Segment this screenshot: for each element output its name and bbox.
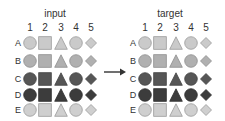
- circle-icon: [23, 103, 37, 117]
- row-label: B: [13, 56, 23, 66]
- diamond-icon: [199, 36, 213, 50]
- circle-icon: [69, 103, 83, 117]
- circle-icon: [23, 36, 37, 50]
- triangle-icon: [54, 54, 68, 68]
- panel-target: target12345ABCDE: [115, 0, 215, 121]
- diamond-icon: [199, 103, 213, 117]
- circle-icon: [184, 103, 198, 117]
- column-label: 1: [138, 22, 152, 33]
- panel-title: target: [125, 8, 215, 19]
- circle-icon: [69, 36, 83, 50]
- circle-icon: [23, 54, 37, 68]
- triangle-icon: [54, 72, 68, 86]
- circle-icon: [69, 72, 83, 86]
- circle-icon: [138, 103, 152, 117]
- square-icon: [38, 72, 52, 86]
- triangle-icon: [54, 88, 68, 102]
- column-label: 5: [84, 22, 98, 33]
- square-icon: [38, 36, 52, 50]
- triangle-icon: [169, 103, 183, 117]
- circle-icon: [69, 88, 83, 102]
- circle-icon: [184, 54, 198, 68]
- circle-icon: [138, 72, 152, 86]
- circle-icon: [23, 72, 37, 86]
- triangle-icon: [169, 36, 183, 50]
- row-label: E: [13, 105, 23, 115]
- row-label: D: [128, 90, 138, 100]
- diamond-icon: [84, 36, 98, 50]
- row-label: A: [128, 38, 138, 48]
- square-icon: [38, 54, 52, 68]
- row-label: A: [13, 38, 23, 48]
- square-icon: [153, 72, 167, 86]
- panel-title: input: [10, 8, 100, 19]
- column-label: 4: [184, 22, 198, 33]
- diamond-icon: [84, 54, 98, 68]
- column-label: 2: [153, 22, 167, 33]
- circle-icon: [184, 88, 198, 102]
- circle-icon: [184, 36, 198, 50]
- square-icon: [38, 103, 52, 117]
- square-icon: [153, 88, 167, 102]
- triangle-icon: [169, 72, 183, 86]
- diamond-icon: [84, 88, 98, 102]
- circle-icon: [69, 54, 83, 68]
- square-icon: [38, 88, 52, 102]
- column-label: 3: [54, 22, 68, 33]
- column-label: 4: [69, 22, 83, 33]
- right-arrow-icon: [103, 64, 127, 76]
- diamond-icon: [199, 72, 213, 86]
- diamond-icon: [199, 88, 213, 102]
- triangle-icon: [169, 88, 183, 102]
- column-label: 1: [23, 22, 37, 33]
- triangle-icon: [54, 36, 68, 50]
- circle-icon: [138, 54, 152, 68]
- column-label: 5: [199, 22, 213, 33]
- circle-icon: [138, 88, 152, 102]
- square-icon: [153, 54, 167, 68]
- circle-icon: [23, 88, 37, 102]
- triangle-icon: [169, 54, 183, 68]
- circle-icon: [138, 36, 152, 50]
- column-label: 3: [169, 22, 183, 33]
- square-icon: [153, 103, 167, 117]
- row-label: B: [128, 56, 138, 66]
- row-label: C: [13, 74, 23, 84]
- column-label: 2: [38, 22, 52, 33]
- diamond-icon: [84, 103, 98, 117]
- row-label: D: [13, 90, 23, 100]
- row-label: E: [128, 105, 138, 115]
- row-label: C: [128, 74, 138, 84]
- circle-icon: [184, 72, 198, 86]
- square-icon: [153, 36, 167, 50]
- triangle-icon: [54, 103, 68, 117]
- diamond-icon: [84, 72, 98, 86]
- diamond-icon: [199, 54, 213, 68]
- panel-input: input12345ABCDE: [0, 0, 100, 121]
